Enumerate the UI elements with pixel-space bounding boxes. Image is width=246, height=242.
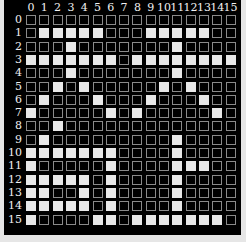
grid-cell[interactable] bbox=[199, 175, 209, 185]
grid-cell[interactable] bbox=[132, 55, 142, 65]
grid-cell[interactable] bbox=[26, 148, 36, 158]
grid-cell[interactable] bbox=[199, 55, 209, 65]
grid-cell[interactable] bbox=[212, 28, 222, 38]
grid-cell[interactable] bbox=[212, 15, 222, 25]
grid-cell[interactable] bbox=[53, 95, 63, 105]
grid-cell[interactable] bbox=[132, 15, 142, 25]
grid-cell[interactable] bbox=[159, 188, 169, 198]
grid-cell[interactable] bbox=[132, 121, 142, 131]
grid-cell[interactable] bbox=[146, 215, 156, 225]
grid-cell[interactable] bbox=[106, 188, 116, 198]
grid-cell[interactable] bbox=[212, 135, 222, 145]
grid-cell[interactable] bbox=[39, 28, 49, 38]
grid-cell[interactable] bbox=[79, 55, 89, 65]
grid-cell[interactable] bbox=[172, 148, 182, 158]
grid-cell[interactable] bbox=[93, 188, 103, 198]
grid-cell[interactable] bbox=[39, 188, 49, 198]
grid-cell[interactable] bbox=[119, 82, 129, 92]
grid-cell[interactable] bbox=[186, 135, 196, 145]
grid-cell[interactable] bbox=[146, 148, 156, 158]
grid-cell[interactable] bbox=[186, 148, 196, 158]
grid-cell[interactable] bbox=[186, 68, 196, 78]
grid-cell[interactable] bbox=[186, 121, 196, 131]
grid-cell[interactable] bbox=[66, 15, 76, 25]
grid-cell[interactable] bbox=[132, 148, 142, 158]
grid-cell[interactable] bbox=[186, 161, 196, 171]
grid-cell[interactable] bbox=[146, 175, 156, 185]
grid-cell[interactable] bbox=[159, 121, 169, 131]
grid-cell[interactable] bbox=[119, 215, 129, 225]
grid-cell[interactable] bbox=[93, 215, 103, 225]
grid-cell[interactable] bbox=[79, 161, 89, 171]
grid-cell[interactable] bbox=[172, 82, 182, 92]
grid-cell[interactable] bbox=[226, 188, 236, 198]
grid-cell[interactable] bbox=[79, 188, 89, 198]
grid-cell[interactable] bbox=[53, 201, 63, 211]
grid-cell[interactable] bbox=[106, 135, 116, 145]
grid-cell[interactable] bbox=[119, 135, 129, 145]
grid-cell[interactable] bbox=[146, 188, 156, 198]
grid-cell[interactable] bbox=[186, 215, 196, 225]
grid-cell[interactable] bbox=[132, 215, 142, 225]
grid-cell[interactable] bbox=[66, 42, 76, 52]
grid-cell[interactable] bbox=[79, 121, 89, 131]
grid-cell[interactable] bbox=[186, 55, 196, 65]
grid-cell[interactable] bbox=[212, 42, 222, 52]
grid-cell[interactable] bbox=[186, 28, 196, 38]
grid-cell[interactable] bbox=[199, 148, 209, 158]
grid-cell[interactable] bbox=[39, 175, 49, 185]
grid-cell[interactable] bbox=[212, 55, 222, 65]
grid-cell[interactable] bbox=[119, 55, 129, 65]
grid-cell[interactable] bbox=[53, 15, 63, 25]
grid-cell[interactable] bbox=[132, 188, 142, 198]
grid-cell[interactable] bbox=[146, 68, 156, 78]
grid-cell[interactable] bbox=[106, 68, 116, 78]
grid-cell[interactable] bbox=[226, 55, 236, 65]
grid-cell[interactable] bbox=[199, 108, 209, 118]
grid-cell[interactable] bbox=[212, 148, 222, 158]
grid-cell[interactable] bbox=[172, 95, 182, 105]
grid-cell[interactable] bbox=[226, 15, 236, 25]
grid-cell[interactable] bbox=[119, 42, 129, 52]
grid-cell[interactable] bbox=[119, 68, 129, 78]
grid-cell[interactable] bbox=[226, 161, 236, 171]
grid-cell[interactable] bbox=[146, 95, 156, 105]
grid-cell[interactable] bbox=[79, 175, 89, 185]
grid-cell[interactable] bbox=[172, 55, 182, 65]
grid-cell[interactable] bbox=[172, 161, 182, 171]
grid-cell[interactable] bbox=[53, 55, 63, 65]
grid-cell[interactable] bbox=[79, 148, 89, 158]
grid-cell[interactable] bbox=[172, 28, 182, 38]
grid-cell[interactable] bbox=[79, 15, 89, 25]
grid-cell[interactable] bbox=[212, 121, 222, 131]
grid-cell[interactable] bbox=[132, 175, 142, 185]
grid-cell[interactable] bbox=[93, 82, 103, 92]
grid-cell[interactable] bbox=[159, 28, 169, 38]
grid-cell[interactable] bbox=[66, 148, 76, 158]
grid-cell[interactable] bbox=[159, 175, 169, 185]
grid-cell[interactable] bbox=[226, 148, 236, 158]
grid-cell[interactable] bbox=[26, 68, 36, 78]
grid-cell[interactable] bbox=[66, 188, 76, 198]
grid-cell[interactable] bbox=[93, 68, 103, 78]
grid-cell[interactable] bbox=[106, 15, 116, 25]
grid-cell[interactable] bbox=[53, 68, 63, 78]
grid-cell[interactable] bbox=[226, 135, 236, 145]
grid-cell[interactable] bbox=[119, 121, 129, 131]
grid-cell[interactable] bbox=[199, 201, 209, 211]
grid-cell[interactable] bbox=[53, 175, 63, 185]
grid-cell[interactable] bbox=[26, 108, 36, 118]
grid-cell[interactable] bbox=[66, 82, 76, 92]
grid-cell[interactable] bbox=[39, 55, 49, 65]
grid-cell[interactable] bbox=[53, 148, 63, 158]
grid-cell[interactable] bbox=[186, 108, 196, 118]
grid-cell[interactable] bbox=[106, 95, 116, 105]
grid-cell[interactable] bbox=[172, 42, 182, 52]
grid-cell[interactable] bbox=[39, 161, 49, 171]
grid-cell[interactable] bbox=[159, 148, 169, 158]
grid-cell[interactable] bbox=[26, 135, 36, 145]
grid-cell[interactable] bbox=[93, 108, 103, 118]
grid-cell[interactable] bbox=[119, 188, 129, 198]
grid-cell[interactable] bbox=[199, 188, 209, 198]
grid-cell[interactable] bbox=[132, 42, 142, 52]
